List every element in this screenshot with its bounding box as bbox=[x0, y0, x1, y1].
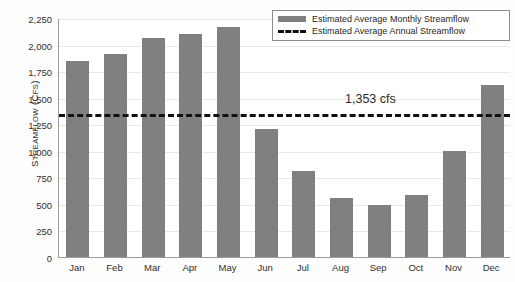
bar-swatch-icon bbox=[278, 16, 306, 22]
bar-slot bbox=[210, 19, 248, 257]
x-tick-label-jul: Jul bbox=[283, 262, 323, 273]
chart-legend: Estimated Average Monthly Streamflow Est… bbox=[272, 10, 510, 41]
bar-jan bbox=[66, 61, 89, 258]
y-tick-label: 1,000 bbox=[6, 146, 52, 157]
x-tick-label-feb: Feb bbox=[95, 262, 135, 273]
bar-apr bbox=[179, 34, 202, 257]
bar-oct bbox=[405, 195, 428, 257]
x-tick-label-sep: Sep bbox=[358, 262, 398, 273]
bar-slot bbox=[134, 19, 172, 257]
x-tick-label-aug: Aug bbox=[321, 262, 361, 273]
streamflow-bar-chart: STREAMFLOW (CFS) 02505007501,0001,2501,5… bbox=[0, 0, 515, 282]
x-tick-label-jun: Jun bbox=[245, 262, 285, 273]
bars-layer bbox=[59, 19, 510, 257]
y-tick-label: 250 bbox=[6, 226, 52, 237]
bar-slot bbox=[172, 19, 210, 257]
y-tick-label: 0 bbox=[6, 253, 52, 264]
legend-label-monthly: Estimated Average Monthly Streamflow bbox=[312, 14, 469, 24]
bar-slot bbox=[398, 19, 436, 257]
y-tick-label: 750 bbox=[6, 173, 52, 184]
y-axis-title-text: S bbox=[29, 160, 40, 167]
bar-feb bbox=[104, 54, 127, 257]
x-tick-label-oct: Oct bbox=[396, 262, 436, 273]
y-tick-label: 500 bbox=[6, 199, 52, 210]
legend-label-annual: Estimated Average Annual Streamflow bbox=[312, 26, 465, 36]
x-tick-label-may: May bbox=[208, 262, 248, 273]
y-tick-label: 1,500 bbox=[6, 93, 52, 104]
bar-slot bbox=[59, 19, 97, 257]
plot-area bbox=[58, 19, 510, 258]
x-tick-label-dec: Dec bbox=[471, 262, 511, 273]
bar-sep bbox=[368, 205, 391, 257]
y-tick-label: 2,250 bbox=[6, 14, 52, 25]
bar-slot bbox=[436, 19, 474, 257]
annual-average-annotation: 1,353 cfs bbox=[345, 92, 396, 106]
y-axis-unit-close: ) bbox=[29, 80, 40, 84]
legend-item-annual: Estimated Average Annual Streamflow bbox=[278, 25, 504, 37]
bar-slot bbox=[323, 19, 361, 257]
bar-slot bbox=[247, 19, 285, 257]
annual-average-line bbox=[59, 114, 510, 117]
bar-jun bbox=[255, 129, 278, 257]
x-tick-label-jan: Jan bbox=[57, 262, 97, 273]
bar-may bbox=[217, 27, 240, 258]
bar-slot bbox=[360, 19, 398, 257]
x-tick-label-mar: Mar bbox=[132, 262, 172, 273]
y-tick-label: 1,250 bbox=[6, 120, 52, 131]
y-tick-label: 2,000 bbox=[6, 40, 52, 51]
bar-slot bbox=[285, 19, 323, 257]
y-tick-label: 1,750 bbox=[6, 67, 52, 78]
dashed-line-swatch-icon bbox=[278, 30, 306, 33]
bar-mar bbox=[142, 38, 165, 257]
bar-slot bbox=[97, 19, 135, 257]
bar-jul bbox=[292, 171, 315, 257]
x-tick-label-nov: Nov bbox=[434, 262, 474, 273]
x-tick-label-apr: Apr bbox=[170, 262, 210, 273]
bar-nov bbox=[443, 151, 466, 257]
bar-dec bbox=[481, 85, 504, 257]
legend-item-monthly: Estimated Average Monthly Streamflow bbox=[278, 13, 504, 25]
bar-aug bbox=[330, 198, 353, 257]
bar-slot bbox=[473, 19, 511, 257]
